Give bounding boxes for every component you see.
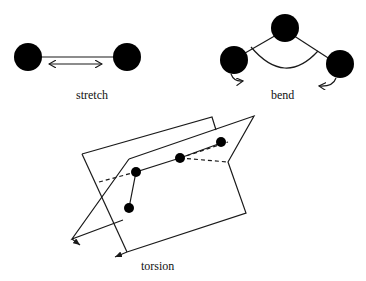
torsion-atom-4 (216, 137, 226, 147)
bend-label: bend (271, 88, 294, 102)
stretch-atom-right (113, 43, 141, 71)
torsion-label: torsion (141, 259, 174, 273)
torsion-panel: torsion (72, 116, 254, 273)
torsion-atom-2 (131, 167, 141, 177)
torsion-chain-bonds (129, 143, 221, 208)
torsion-rotation-arrow-left-icon (72, 239, 80, 245)
bend-atom-left (220, 46, 248, 74)
stretch-panel: stretch (14, 43, 141, 102)
stretch-label: stretch (76, 88, 108, 102)
torsion-axis-dashed-left (99, 172, 136, 182)
bend-angle-arc (251, 47, 318, 68)
torsion-atom-1 (124, 203, 134, 213)
torsion-rotation-arrow-right-icon (115, 252, 127, 257)
torsion-back-plane-left-edge (82, 154, 127, 252)
molecular-motions-diagram: stretch bend torsion (0, 0, 366, 281)
bend-curl-arrow-left-icon (231, 74, 243, 81)
torsion-atom-3 (175, 153, 185, 163)
bend-panel: bend (220, 14, 354, 102)
torsion-front-plane-left (72, 159, 129, 239)
torsion-front-plane (127, 116, 254, 252)
stretch-atom-left (14, 43, 42, 71)
torsion-axis-dashed-right (180, 158, 228, 162)
bend-atom-right (326, 50, 354, 78)
bend-curl-arrow-right-icon (319, 78, 336, 86)
bend-atom-center (271, 14, 299, 42)
